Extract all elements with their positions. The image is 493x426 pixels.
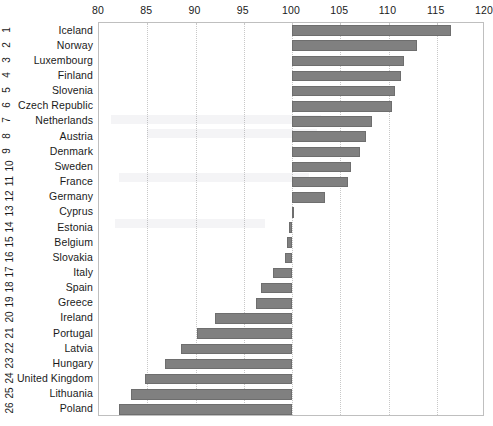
x-tick-label: 115 bbox=[427, 4, 444, 16]
y-axis-index: 10 bbox=[4, 160, 15, 171]
y-axis-index: 13 bbox=[4, 206, 15, 217]
y-axis-row: 18Spain bbox=[0, 280, 98, 295]
y-axis-index: 21 bbox=[4, 327, 15, 338]
y-axis-category-label: Finland bbox=[58, 69, 98, 81]
y-axis-row: 21Portugal bbox=[0, 325, 98, 340]
x-tick-label: 105 bbox=[330, 4, 348, 16]
bar bbox=[287, 237, 292, 248]
bar bbox=[197, 328, 292, 339]
y-axis-category-label: Poland bbox=[60, 402, 98, 414]
background-artifact bbox=[115, 219, 265, 228]
y-axis-index: 22 bbox=[4, 342, 15, 353]
bar bbox=[292, 192, 325, 203]
bar bbox=[292, 86, 395, 97]
bar bbox=[292, 71, 401, 82]
bar bbox=[119, 404, 292, 415]
y-axis-category-label: Italy bbox=[73, 266, 98, 278]
y-axis-row: 24United Kingdom bbox=[0, 371, 98, 386]
x-tick-label: 80 bbox=[92, 4, 104, 16]
bar bbox=[292, 56, 404, 67]
bar bbox=[215, 313, 292, 324]
y-axis-category-label: France bbox=[60, 175, 98, 187]
y-axis-category-label: Slovenia bbox=[52, 84, 98, 96]
y-axis-category-label: Portugal bbox=[53, 327, 98, 339]
gridline bbox=[340, 23, 341, 415]
background-artifact bbox=[111, 115, 321, 124]
y-axis-labels: 1Iceland2Norway3Luxembourg4Finland5Slove… bbox=[0, 22, 98, 416]
y-axis-index: 12 bbox=[4, 191, 15, 202]
y-axis-index: 15 bbox=[4, 236, 15, 247]
y-axis-index: 11 bbox=[4, 176, 15, 186]
gridline bbox=[244, 23, 245, 415]
gridline bbox=[292, 23, 293, 415]
x-tick-label: 100 bbox=[282, 4, 300, 16]
y-axis-row: 7Netherlands bbox=[0, 113, 98, 128]
y-axis-index: 2 bbox=[1, 42, 12, 48]
y-axis-index: 4 bbox=[1, 72, 12, 78]
y-axis-row: 3Luxembourg bbox=[0, 52, 98, 67]
y-axis-row: 15Belgium bbox=[0, 234, 98, 249]
gridline bbox=[147, 23, 148, 415]
bar bbox=[285, 253, 292, 264]
y-axis-category-label: Germany bbox=[49, 190, 98, 202]
y-axis-category-label: Netherlands bbox=[35, 114, 98, 126]
y-axis-index: 9 bbox=[1, 148, 12, 154]
bar bbox=[145, 374, 292, 385]
y-axis-row: 1Iceland bbox=[0, 22, 98, 37]
y-axis-row: 8Austria bbox=[0, 128, 98, 143]
bar bbox=[292, 40, 417, 51]
y-axis-row: 5Slovenia bbox=[0, 83, 98, 98]
y-axis-index: 25 bbox=[4, 388, 15, 399]
y-axis-index: 14 bbox=[4, 221, 15, 232]
y-axis-category-label: Cyprus bbox=[59, 205, 98, 217]
gridline bbox=[196, 23, 197, 415]
y-axis-row: 13Cyprus bbox=[0, 204, 98, 219]
y-axis-index: 7 bbox=[1, 118, 12, 124]
x-axis-top: 80859095100105110115120 bbox=[0, 0, 487, 22]
y-axis-row: 26Poland bbox=[0, 401, 98, 416]
y-axis-row: 20Ireland bbox=[0, 310, 98, 325]
bar bbox=[256, 298, 292, 309]
bar bbox=[261, 283, 292, 294]
x-tick-label: 120 bbox=[475, 4, 493, 16]
y-axis-category-label: Denmark bbox=[50, 145, 98, 157]
y-axis-category-label: Belgium bbox=[54, 236, 98, 248]
y-axis-row: 6Czech Republic bbox=[0, 98, 98, 113]
bar bbox=[292, 116, 372, 127]
y-axis-row: 25Lithuania bbox=[0, 386, 98, 401]
y-axis-category-label: Estonia bbox=[57, 221, 98, 233]
y-axis-index: 3 bbox=[1, 57, 12, 63]
y-axis-category-label: Czech Republic bbox=[18, 99, 98, 111]
y-axis-index: 17 bbox=[4, 266, 15, 277]
y-axis-index: 16 bbox=[4, 251, 15, 262]
y-axis-category-label: Austria bbox=[60, 130, 98, 142]
y-axis-category-label: Hungary bbox=[53, 357, 98, 369]
y-axis-index: 8 bbox=[1, 133, 12, 139]
y-axis-row: 9Denmark bbox=[0, 143, 98, 158]
y-axis-category-label: Greece bbox=[58, 296, 98, 308]
y-axis-index: 18 bbox=[4, 282, 15, 293]
y-axis-row: 12Germany bbox=[0, 189, 98, 204]
bar bbox=[131, 389, 292, 400]
y-axis-category-label: Ireland bbox=[60, 311, 98, 323]
bar bbox=[289, 222, 292, 233]
y-axis-index: 26 bbox=[4, 403, 15, 414]
y-axis-category-label: Latvia bbox=[64, 342, 98, 354]
y-axis-index: 6 bbox=[1, 103, 12, 109]
bar bbox=[292, 177, 348, 188]
y-axis-category-label: Luxembourg bbox=[34, 54, 98, 66]
gridline bbox=[389, 23, 390, 415]
bar bbox=[292, 25, 451, 36]
bar bbox=[292, 101, 392, 112]
y-axis-category-label: United Kingdom bbox=[17, 372, 98, 384]
y-axis-category-label: Slovakia bbox=[53, 251, 99, 263]
y-axis-row: 14Estonia bbox=[0, 219, 98, 234]
y-axis-index: 5 bbox=[1, 87, 12, 93]
y-axis-row: 23Hungary bbox=[0, 355, 98, 370]
bar bbox=[273, 268, 292, 279]
y-axis-index: 19 bbox=[4, 297, 15, 308]
y-axis-row: 4Finland bbox=[0, 67, 98, 82]
y-axis-row: 22Latvia bbox=[0, 340, 98, 355]
y-axis-index: 20 bbox=[4, 312, 15, 323]
